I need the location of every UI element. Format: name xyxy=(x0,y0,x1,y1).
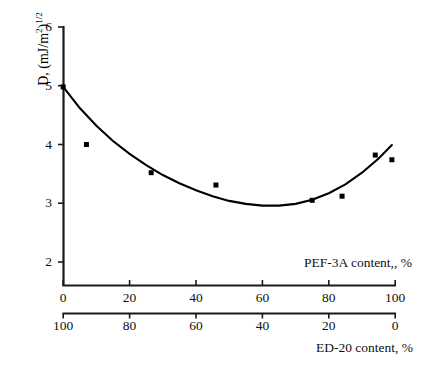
x-axis-top-caption: PEF-3A content,, % xyxy=(304,255,412,271)
data-point xyxy=(213,183,218,188)
x-tick-label-bottom: 100 xyxy=(43,319,83,333)
data-point xyxy=(389,157,394,162)
x-tick-label-top: 60 xyxy=(242,291,282,305)
y-axis-caption-sup-area: 2 xyxy=(34,28,44,33)
y-tick-label: 2 xyxy=(28,255,52,269)
x-tick-label-bottom: 20 xyxy=(309,319,349,333)
y-axis-caption-text: D, (mJ/m2)1/2 xyxy=(30,0,53,114)
x-tick-label-bottom: 80 xyxy=(110,319,150,333)
y-axis-caption-mid: ) xyxy=(36,24,51,29)
data-point xyxy=(149,170,154,175)
x-tick-label-top: 0 xyxy=(43,291,83,305)
x-tick-label-top: 100 xyxy=(375,291,415,305)
data-point xyxy=(340,194,345,199)
data-point xyxy=(373,153,378,158)
x-tick-label-bottom: 60 xyxy=(176,319,216,333)
data-point xyxy=(310,198,315,203)
y-tick-label: 4 xyxy=(28,138,52,152)
x-tick-label-bottom: 40 xyxy=(242,319,282,333)
chart-figure: 6 5 4 3 2 0 20 40 60 80 100 100 80 60 40… xyxy=(0,0,441,377)
fit-curve xyxy=(63,87,392,206)
y-axis-caption-base: D, (mJ/m xyxy=(36,33,51,86)
data-point xyxy=(61,84,66,89)
x-axis-bottom-caption: ED-20 content, % xyxy=(316,340,413,356)
x-tick-label-top: 80 xyxy=(309,291,349,305)
data-point xyxy=(84,142,89,147)
y-axis-caption-sup-root: 1/2 xyxy=(34,12,44,24)
y-tick-label: 3 xyxy=(28,196,52,210)
x-tick-label-bottom: 0 xyxy=(375,319,415,333)
x-tick-label-top: 40 xyxy=(176,291,216,305)
y-axis-caption: D, (mJ/m2)1/2 xyxy=(30,0,48,114)
x-tick-label-top: 20 xyxy=(110,291,150,305)
